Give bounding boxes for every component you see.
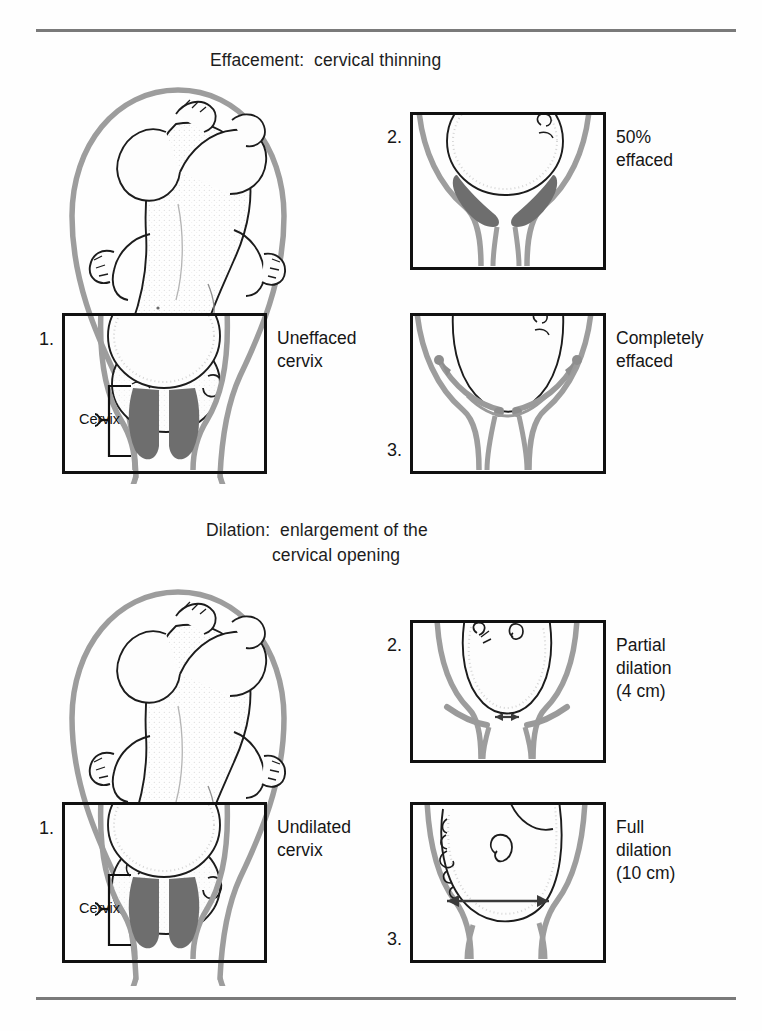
- panel-number-effacement-2: 2.: [387, 128, 402, 146]
- panel-label-effacement-1: Uneffaced cervix: [277, 327, 356, 373]
- panel-number-effacement-1: 1.: [39, 330, 54, 348]
- section-title-dilation-line2: cervical opening: [272, 543, 400, 568]
- panel-label-effacement-2: 50% effaced: [616, 126, 673, 172]
- panel-effacement-1[interactable]: Cervix: [62, 313, 267, 474]
- panel-number-dilation-1: 1.: [39, 819, 54, 837]
- panel-number-dilation-3: 3.: [387, 930, 402, 948]
- top-rule: [36, 29, 736, 32]
- panel-number-dilation-2: 2.: [387, 636, 402, 654]
- panel-effacement-2[interactable]: [410, 112, 606, 270]
- panel-label-dilation-3: Full dilation (10 cm): [616, 816, 675, 885]
- cervix-label-effacement: Cervix: [79, 412, 120, 427]
- panel-dilation-3[interactable]: [410, 802, 606, 963]
- cervix-label-dilation: Cervix: [79, 901, 120, 916]
- panel-label-dilation-2: Partial dilation (4 cm): [616, 634, 671, 703]
- section-title-dilation-line1: Dilation: enlargement of the: [206, 520, 428, 540]
- section-title-effacement: Effacement: cervical thinning: [210, 48, 441, 73]
- bottom-rule: [36, 997, 736, 1000]
- panel-dilation-1[interactable]: Cervix: [62, 802, 267, 963]
- panel-label-dilation-1: Undilated cervix: [277, 816, 351, 862]
- panel-dilation-2[interactable]: [410, 620, 606, 763]
- panel-label-effacement-3: Completely effaced: [616, 327, 704, 373]
- section-title-dilation: Dilation: enlargement of thecervical ope…: [206, 518, 428, 568]
- figure-page: Effacement: cervical thinning: [0, 0, 762, 1031]
- panel-effacement-3[interactable]: [410, 313, 606, 474]
- panel-number-effacement-3: 3.: [387, 441, 402, 459]
